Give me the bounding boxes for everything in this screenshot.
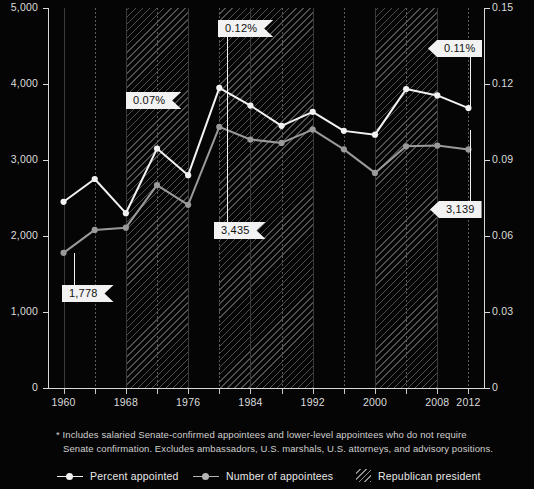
legend-item-republican-president[interactable]: Republican president (356, 469, 481, 482)
left-axis-tick-label: 0 (32, 381, 38, 393)
data-point[interactable] (403, 143, 409, 149)
left-axis-tick-label: 4,000 (11, 77, 38, 89)
right-axis-tick-label: 0 (492, 381, 498, 393)
callout-leader-line (470, 130, 471, 201)
right-axis-tick (485, 160, 490, 161)
footnote: * Includes salaried Senate-confirmed app… (56, 428, 526, 455)
plot-inner (48, 8, 484, 388)
x-axis-tick (313, 389, 314, 394)
series-line-percent-appointed (64, 88, 469, 213)
callout-label: 3,139 (430, 201, 482, 218)
right-axis-line (484, 8, 485, 389)
data-point[interactable] (185, 172, 191, 178)
right-axis-tick (485, 312, 490, 313)
left-axis-tick (43, 8, 48, 9)
data-point[interactable] (92, 176, 98, 182)
plot-area (48, 8, 484, 388)
data-point[interactable] (372, 132, 378, 138)
data-point[interactable] (60, 250, 66, 256)
left-axis-tick-label: 2,000 (11, 229, 38, 241)
data-point[interactable] (247, 136, 253, 142)
right-axis-tick-label: 0.06 (492, 229, 513, 241)
data-point[interactable] (310, 109, 316, 115)
x-axis-tick-label: 2008 (425, 396, 449, 408)
x-axis-tick (468, 389, 469, 394)
footnote-line-1: * Includes salaried Senate-confirmed app… (56, 428, 526, 442)
data-point[interactable] (123, 210, 129, 216)
data-point[interactable] (434, 142, 440, 148)
right-axis-tick (485, 8, 490, 9)
right-axis-tick (485, 388, 490, 389)
left-axis-tick-label: 3,000 (11, 153, 38, 165)
callout-leader-line (227, 37, 228, 110)
hatch-swatch-icon (356, 469, 371, 482)
series-lines (48, 8, 484, 388)
x-axis-tick (344, 389, 345, 394)
callout-label: 0.11% (428, 40, 482, 57)
data-point[interactable] (372, 170, 378, 176)
legend-label: Percent appointed (90, 470, 179, 482)
x-axis-tick (219, 389, 220, 394)
legend-label: Number of appointees (226, 470, 333, 482)
legend-label: Republican president (378, 470, 481, 482)
legend-line-swatch-icon (57, 472, 83, 481)
data-point[interactable] (216, 124, 222, 130)
x-axis-tick (157, 389, 158, 394)
left-axis-tick-label: 1,000 (11, 305, 38, 317)
left-axis-tick (43, 160, 48, 161)
chart-legend: Percent appointed Number of appointees R… (0, 470, 534, 486)
right-axis-tick-label: 0.09 (492, 153, 513, 165)
left-axis-tick (43, 84, 48, 85)
legend-item-number-of-appointees[interactable]: Number of appointees (193, 470, 333, 482)
data-point[interactable] (310, 127, 316, 133)
x-axis-tick (64, 389, 65, 394)
left-axis-tick-label: 5,000 (11, 1, 38, 13)
right-axis-tick-label: 0.12 (492, 77, 513, 89)
x-axis-tick-label: 1992 (301, 396, 325, 408)
data-point[interactable] (278, 140, 284, 146)
bottom-axis-line (48, 388, 485, 389)
chart-root: 01,0002,0003,0004,0005,000 00.030.060.09… (0, 0, 534, 489)
right-axis-tick (485, 84, 490, 85)
data-point[interactable] (185, 202, 191, 208)
right-axis-tick (485, 236, 490, 237)
x-axis-tick (188, 389, 189, 394)
callout-leader-line (227, 130, 228, 222)
data-point[interactable] (154, 182, 160, 188)
data-point[interactable] (278, 123, 284, 129)
data-point[interactable] (434, 92, 440, 98)
right-axis-tick-label: 0.03 (492, 305, 513, 317)
data-point[interactable] (92, 227, 98, 233)
data-point[interactable] (154, 146, 160, 152)
data-point[interactable] (216, 85, 222, 91)
data-point[interactable] (341, 146, 347, 152)
x-axis-tick (282, 389, 283, 394)
x-axis-tick-label: 2012 (456, 396, 480, 408)
callout-leader-line (470, 57, 471, 108)
data-point[interactable] (403, 86, 409, 92)
x-axis-tick-label: 1968 (114, 396, 138, 408)
x-axis-tick (250, 389, 251, 394)
x-axis-tick (406, 389, 407, 394)
data-point[interactable] (123, 225, 129, 231)
data-point[interactable] (60, 199, 66, 205)
legend-line-swatch-icon (193, 472, 219, 481)
x-axis-tick-label: 2000 (363, 396, 387, 408)
footnote-line-2: Senate confirmation. Excludes ambassador… (56, 442, 526, 456)
callout-leader-line (74, 253, 75, 285)
x-axis-tick (126, 389, 127, 394)
x-axis-tick-label: 1960 (51, 396, 75, 408)
legend-item-percent-appointed[interactable]: Percent appointed (57, 470, 179, 482)
right-axis-tick-label: 0.15 (492, 1, 513, 13)
data-point[interactable] (341, 128, 347, 134)
left-axis-tick (43, 388, 48, 389)
x-axis-tick (375, 389, 376, 394)
x-axis-tick (95, 389, 96, 394)
x-axis-tick-label: 1984 (238, 396, 262, 408)
data-point[interactable] (247, 102, 253, 108)
x-axis-tick-label: 1976 (176, 396, 200, 408)
left-axis-tick (43, 312, 48, 313)
left-axis-tick (43, 236, 48, 237)
x-axis-tick (437, 389, 438, 394)
